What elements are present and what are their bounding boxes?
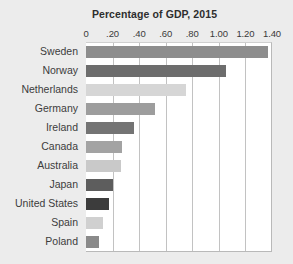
bar-norway [86, 65, 226, 77]
x-axis-tick-labels: 0.20.40.60.801.001.201.40 [86, 28, 272, 41]
category-label-netherlands: Netherlands [0, 80, 82, 99]
bar-row [86, 100, 271, 119]
x-tick-label: 1.20 [236, 28, 254, 39]
plot-area [86, 42, 272, 252]
category-label-germany: Germany [0, 99, 82, 118]
category-label-ireland: Ireland [0, 118, 82, 137]
x-tick-label: .40 [133, 28, 146, 39]
bar-germany [86, 103, 155, 115]
bar-row [86, 214, 271, 233]
y-axis-category-labels: SwedenNorwayNetherlandsGermanyIrelandCan… [0, 42, 82, 252]
bar-row [86, 157, 271, 176]
bar-row [86, 195, 271, 214]
bar-row [86, 81, 271, 100]
x-tick-label: .80 [186, 28, 199, 39]
x-tick-label: .20 [106, 28, 119, 39]
bar-row [86, 233, 271, 252]
category-label-spain: Spain [0, 213, 82, 232]
x-tick-label: 1.00 [210, 28, 228, 39]
chart-title: Percentage of GDP, 2015 [0, 8, 293, 20]
category-label-australia: Australia [0, 156, 82, 175]
bar-row [86, 62, 271, 81]
category-label-japan: Japan [0, 175, 82, 194]
bar-united-states [86, 198, 109, 210]
category-label-united-states: United States [0, 194, 82, 213]
bar-netherlands [86, 84, 186, 96]
x-tick-label: .60 [159, 28, 172, 39]
bar-chart: Percentage of GDP, 2015 0.20.40.60.801.0… [0, 0, 293, 264]
bar-sweden [86, 46, 268, 58]
category-label-norway: Norway [0, 61, 82, 80]
x-tick-label: 1.40 [263, 28, 281, 39]
category-label-poland: Poland [0, 232, 82, 251]
bar-poland [86, 236, 99, 248]
bar-australia [86, 160, 121, 172]
bar-row [86, 119, 271, 138]
bar-row [86, 176, 271, 195]
bar-spain [86, 217, 103, 229]
bars-layer [86, 43, 271, 251]
x-tick-label: 0 [83, 28, 88, 39]
bar-canada [86, 141, 122, 153]
category-label-sweden: Sweden [0, 42, 82, 61]
bar-ireland [86, 122, 134, 134]
bar-row [86, 138, 271, 157]
bar-japan [86, 179, 113, 191]
bar-row [86, 43, 271, 62]
category-label-canada: Canada [0, 137, 82, 156]
